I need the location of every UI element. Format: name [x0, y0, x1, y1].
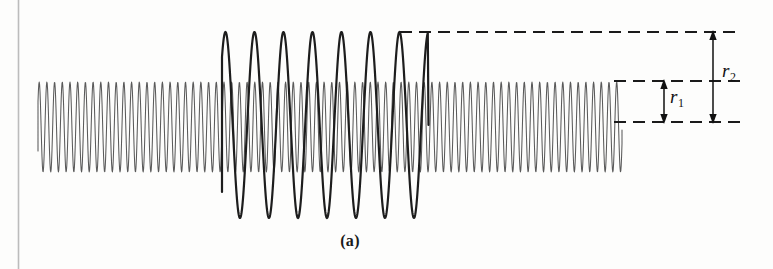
figure-container: r1 r2 (a) [0, 0, 773, 269]
figure-background [0, 0, 773, 269]
dimension-label-r2: r2 [722, 60, 736, 85]
waveform-figure [0, 0, 773, 269]
dimension-label-r1: r1 [670, 86, 684, 111]
dimension-label-r1-subscript: 1 [677, 96, 684, 110]
dimension-label-r2-subscript: 2 [729, 70, 736, 84]
figure-caption: (a) [320, 232, 380, 250]
